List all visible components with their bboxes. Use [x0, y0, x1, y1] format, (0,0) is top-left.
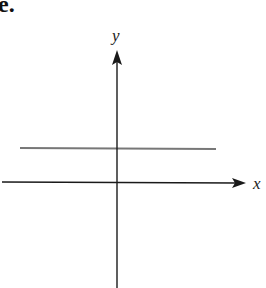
- x-axis: [2, 182, 236, 183]
- y-axis-label: y: [110, 26, 120, 45]
- coordinate-plane: x y: [0, 0, 266, 288]
- horizontal-line-graph: [20, 148, 216, 149]
- x-axis-label: x: [252, 174, 261, 193]
